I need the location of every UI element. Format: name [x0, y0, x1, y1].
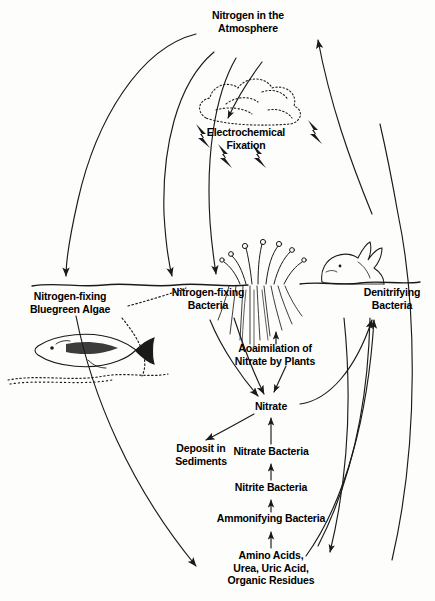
node-nitrate: Nitrate — [255, 400, 287, 413]
rabbit-illustration — [322, 242, 384, 284]
fish-illustration — [35, 334, 154, 368]
arrow-animals-to-organic — [330, 318, 348, 552]
node-assimilation-of-nitrate-by-plants: Aoaimilation of Nitrate by Plants — [235, 342, 315, 367]
curve-right-outer — [380, 124, 412, 560]
node-nitrogen-in-atmosphere: Nitrogen in the Atmosphere — [212, 9, 284, 34]
node-organic-residues: Amino Acids, Urea, Uric Acid, Organic Re… — [228, 549, 315, 587]
curve-right-inner — [318, 318, 370, 546]
node-nitrogen-fixing-bacteria: Nitrogen-fixing Bacteria — [172, 286, 244, 311]
node-ammonifying-bacteria: Ammonifying Bacteria — [217, 512, 325, 525]
arrow-denitrification-to-atmosphere — [318, 40, 372, 214]
node-electrochemical-fixation: Electrochemical Fixation — [207, 126, 285, 151]
node-denitrifying-bacteria: Denitrifying Bacteria — [364, 286, 421, 311]
node-deposit-in-sediments: Deposit in Sediments — [175, 442, 227, 467]
arrow-atmosphere-to-bacteria — [209, 58, 236, 274]
node-nitrogen-fixing-bluegreen-algae: Nitrogen-fixing Bluegreen Algae — [30, 290, 110, 315]
arrow-nitrate-to-deposit — [206, 414, 254, 440]
arrow-nitrate-to-assimilation — [274, 366, 286, 392]
node-nitrate-bacteria: Nitrate Bacteria — [233, 445, 308, 458]
node-nitrite-bacteria: Nitrite Bacteria — [235, 481, 307, 494]
arrow-atmosphere-to-fixation — [228, 62, 262, 118]
sediment-illustration-2 — [10, 380, 112, 384]
sediment-illustration — [8, 374, 168, 380]
arrow-atmosphere-to-soil-left — [164, 52, 214, 276]
nitrogen-cycle-diagram: Nitrogen in the Atmosphere Electrochemic… — [0, 0, 435, 601]
arrow-atmosphere-to-algae — [66, 34, 196, 276]
